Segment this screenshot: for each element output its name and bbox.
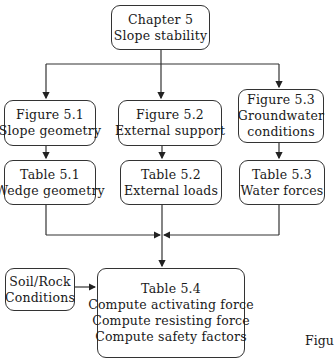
box-title: Soil/Rock	[9, 274, 71, 290]
table-5-3-box: Table 5.3 Water forces	[239, 160, 325, 205]
box-title: Table 5.1	[20, 167, 80, 183]
box-subtitle: Conditions	[5, 290, 75, 306]
table-5-2-box: Table 5.2 External loads	[120, 160, 222, 205]
box-title: Chapter 5	[128, 12, 193, 28]
box-title: Figure 5.2	[136, 107, 204, 123]
box-subtitle: Slope stability	[114, 28, 207, 44]
box-line-2: Compute resisting force	[92, 313, 250, 329]
box-subtitle: External loads	[124, 183, 218, 199]
box-line-3: Compute safety factors	[95, 329, 247, 345]
box-title: Table 5.4	[141, 281, 201, 297]
box-subtitle: Slope geometry	[0, 123, 101, 139]
box-subtitle: Wedge geometry	[0, 183, 105, 199]
box-title: Table 5.3	[252, 167, 312, 183]
box-title: Table 5.2	[141, 167, 201, 183]
figure-caption: Figu	[305, 333, 334, 348]
box-line-1: Compute activating force	[88, 297, 254, 313]
box-subtitle-2: conditions	[247, 124, 315, 140]
table-5-4-box: Table 5.4 Compute activating force Compu…	[97, 268, 245, 358]
figure-5-2-box: Figure 5.2 External support	[118, 100, 222, 146]
table-5-1-box: Table 5.1 Wedge geometry	[4, 160, 96, 205]
figure-5-1-box: Figure 5.1 Slope geometry	[4, 100, 96, 146]
box-subtitle: Water forces	[241, 183, 324, 199]
soil-rock-box: Soil/Rock Conditions	[5, 268, 75, 311]
box-title: Figure 5.1	[16, 107, 84, 123]
figure-5-3-box: Figure 5.3 Groundwater conditions	[238, 89, 324, 143]
box-subtitle: External support	[115, 123, 225, 139]
box-title: Figure 5.3	[247, 92, 315, 108]
chapter-5-box: Chapter 5 Slope stability	[111, 5, 210, 50]
box-subtitle: Groundwater	[238, 108, 324, 124]
